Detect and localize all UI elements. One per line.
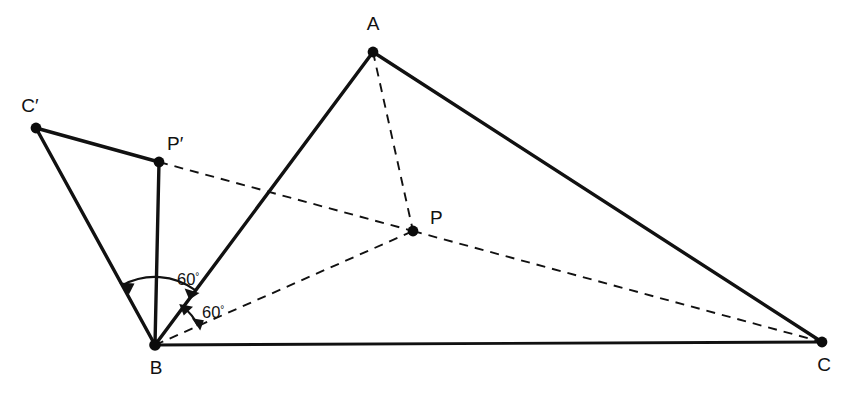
solid-edge-Cprime-Pprime [36, 128, 159, 162]
vertex-dot-A [368, 47, 379, 58]
vertex-label-C-prime: C′ [21, 95, 39, 116]
vertex-dot-P [408, 226, 419, 237]
angle-label-2-degree-symbol: ° [220, 304, 224, 315]
vertex-label-P: P [430, 207, 443, 228]
vertex-label-B: B [150, 357, 163, 378]
angle-label-2-value: 60 [202, 303, 220, 321]
angle-label-1-degree-symbol: ° [195, 271, 199, 282]
solid-edge-B-C [155, 342, 822, 345]
vertex-dot-Cprime [31, 123, 42, 134]
angle-arc-A-B-P [179, 304, 204, 331]
dashed-edge-A-P [373, 52, 413, 231]
dashed-edge-P-C [413, 231, 822, 342]
solid-edge-group [36, 52, 822, 345]
vertex-label-C: C [817, 354, 831, 375]
angle-label-2: 60° [202, 303, 224, 321]
solid-edge-Pprime-B [155, 162, 159, 345]
vertex-dot-B [149, 339, 161, 351]
geometry-figure: A B C P P′ C′ 60° 60° [0, 0, 856, 393]
vertex-label-P-prime: P′ [167, 133, 184, 154]
solid-edge-A-C [373, 52, 822, 342]
geometry-canvas: A B C P P′ C′ 60° 60° [0, 0, 856, 393]
angle-label-1-value: 60 [177, 270, 195, 288]
vertex-label-A: A [367, 13, 380, 34]
vertex-dot-Pprime [154, 157, 165, 168]
solid-edge-B-A [155, 52, 373, 345]
vertex-dot-group [31, 47, 828, 351]
angle-label-1: 60° [177, 270, 199, 288]
dashed-edge-group [155, 52, 822, 345]
vertex-dot-C [817, 337, 828, 348]
dashed-edge-Pprime-P [159, 162, 413, 231]
solid-edge-Cprime-B [36, 128, 155, 345]
